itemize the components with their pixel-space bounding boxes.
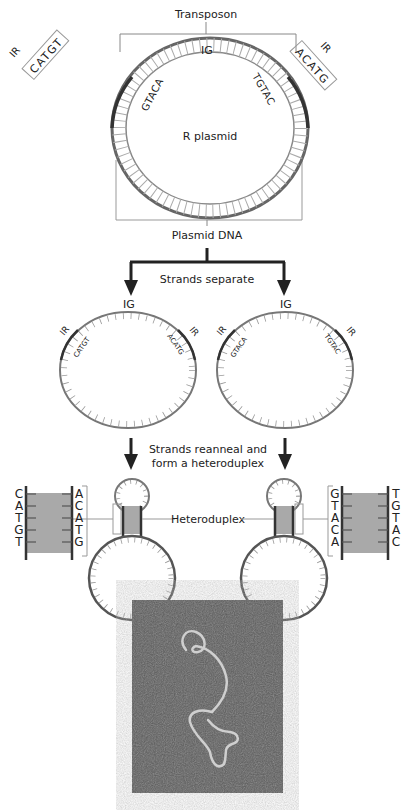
base: A [331, 535, 340, 549]
base: G [74, 535, 83, 549]
single-strand-right: IG IR IR GTACA TGTAC [215, 298, 358, 428]
transposon-heteroduplex-diagram: Transposon IG R plasmid CATGT IR GTACA A… [0, 0, 412, 810]
ir-label: IR [344, 325, 357, 338]
plasmid-bracket [116, 160, 302, 220]
r-plasmid-group: Transposon IG R plasmid CATGT IR GTACA A… [7, 8, 336, 242]
ig-label: IG [280, 298, 292, 311]
inner-strand [126, 52, 294, 204]
outer-strand [112, 38, 308, 218]
ig-label: IG [123, 298, 135, 311]
reanneal-label-1: Strands reanneal and [149, 443, 267, 456]
base-pair-ticks [119, 45, 301, 211]
ir-label: IR [215, 324, 228, 337]
electron-micrograph [132, 600, 283, 793]
ir-label: IR [187, 325, 200, 338]
transposon-label: Transposon [174, 8, 237, 21]
base: T [14, 535, 23, 549]
plasmid-dna-label: Plasmid DNA [172, 229, 243, 242]
ir-right-label: IR [319, 40, 334, 55]
ig-label: IG [201, 44, 213, 57]
ir-left-label: IR [7, 45, 22, 60]
arrow-reanneal-right-icon [278, 454, 292, 470]
ir-label: IR [58, 324, 71, 337]
reanneal-label-2: form a heteroduplex [152, 457, 265, 470]
heteroduplex-right [241, 479, 328, 620]
duplex-detail-right: G T A C A T G T A C [328, 486, 401, 560]
arrow-right-icon [277, 280, 291, 296]
heteroduplex-label: Heteroduplex [171, 513, 246, 526]
r-plasmid-label: R plasmid [183, 130, 237, 143]
arrow-left-icon [124, 280, 138, 296]
arrow-reanneal-left-icon [124, 454, 138, 470]
duplex-detail-left: C A T G T A C A T G [14, 486, 87, 560]
strands-separate-label: Strands separate [160, 273, 255, 286]
base: C [392, 535, 400, 549]
single-strand-left: IG IR IR CATGT ACATG [58, 298, 201, 428]
